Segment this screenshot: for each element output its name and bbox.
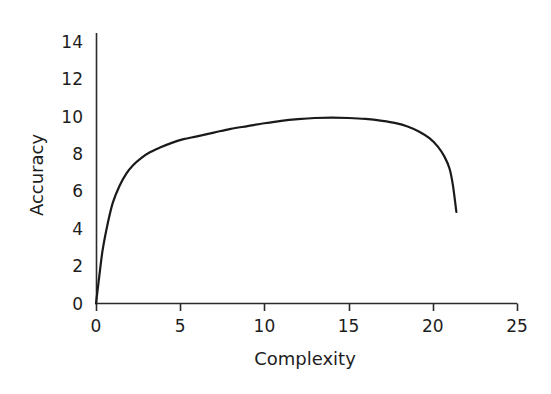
y-axis-tick-label: 6 (50, 181, 83, 201)
x-axis-tick-label: 0 (91, 316, 102, 336)
y-axis-tick-label: 2 (50, 256, 83, 276)
y-axis-tick-label: 0 (50, 294, 83, 314)
x-axis-ticks (97, 304, 518, 312)
x-axis-tick-label: 25 (506, 316, 528, 336)
x-axis-tick-label: 10 (254, 316, 276, 336)
y-axis-tick-label: 8 (50, 144, 83, 164)
axis-group (96, 33, 518, 311)
y-axis-tick-label: 12 (50, 69, 83, 89)
x-axis-tick-label: 15 (338, 316, 360, 336)
y-axis-title: Accuracy (26, 134, 47, 216)
data-line (96, 118, 456, 304)
y-axis-tick-label: 14 (50, 32, 83, 52)
x-axis-tick-label: 5 (175, 316, 186, 336)
y-axis-tick-label: 10 (50, 107, 83, 127)
x-axis-tick-label: 20 (422, 316, 444, 336)
chart-figure: 02468101214 0510152025 Complexity Accura… (0, 0, 551, 394)
y-axis-tick-label: 4 (50, 219, 83, 239)
data-series-group (96, 118, 456, 304)
x-axis-title: Complexity (254, 348, 356, 369)
